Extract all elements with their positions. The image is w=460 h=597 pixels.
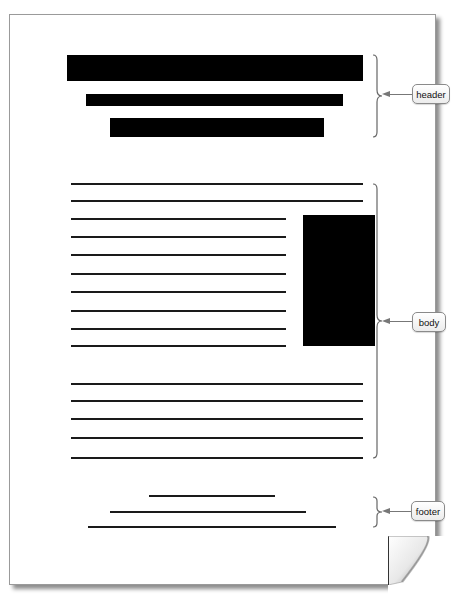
body-line [71,218,286,220]
header-subtitle-bar [86,94,343,106]
body-line [71,291,286,293]
header-callout: header [412,84,450,104]
body-line [71,345,286,347]
header-title-bar [67,55,363,81]
body-image-placeholder [303,215,375,346]
footer-callout: footer [411,501,445,521]
footer-line [88,526,336,528]
body-arrow-line [388,321,412,322]
footer-line [149,495,275,497]
body-line [71,328,286,330]
header-byline-bar [110,118,324,137]
body-line [71,254,286,256]
body-line [71,273,286,275]
body-line [71,310,286,312]
footer-arrow-line [388,511,412,512]
footer-line [110,511,306,513]
body-line [71,200,363,202]
body-line [71,183,363,185]
header-arrow-line [388,94,412,95]
body-line [71,236,286,238]
body-callout: body [412,312,446,332]
page-curl-icon [388,536,436,585]
body-line [71,418,363,420]
body-line [71,457,363,459]
body-line [71,437,363,439]
body-line [71,383,363,385]
body-line [71,400,363,402]
